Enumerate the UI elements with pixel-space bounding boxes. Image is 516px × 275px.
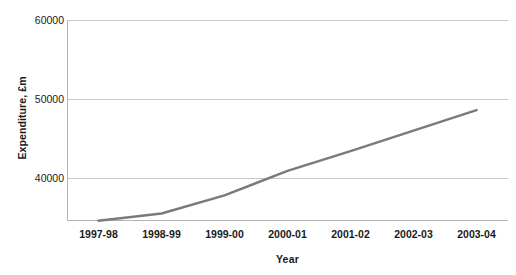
x-tick-label-1997-98: 1997-98	[64, 228, 134, 241]
chart-figure: Expenditure, £m 600005000040000 1997-981…	[0, 0, 516, 275]
y-tick-label-60000: 60000	[6, 14, 64, 26]
y-tick-label-40000: 40000	[6, 172, 64, 184]
series-line-expenditure	[99, 110, 477, 221]
x-tick-label-2003-04: 2003-04	[442, 228, 512, 241]
plot-area	[67, 20, 508, 221]
x-tick-label-2000-01: 2000-01	[253, 228, 323, 241]
y-tick-label-50000: 50000	[6, 93, 64, 105]
clipped-title-remnant	[0, 0, 516, 2]
x-axis-tick-labels: 1997-981998-991999-002000-012001-022002-…	[67, 228, 508, 242]
x-tick-label-2001-02: 2001-02	[316, 228, 386, 241]
y-axis-tick-labels: 600005000040000	[4, 0, 64, 275]
x-tick-label-1999-00: 1999-00	[190, 228, 260, 241]
x-tick-label-1998-99: 1998-99	[127, 228, 197, 241]
data-series-svg	[67, 20, 508, 221]
x-tick-label-2002-03: 2002-03	[379, 228, 449, 241]
x-axis-title: Year	[67, 253, 508, 265]
